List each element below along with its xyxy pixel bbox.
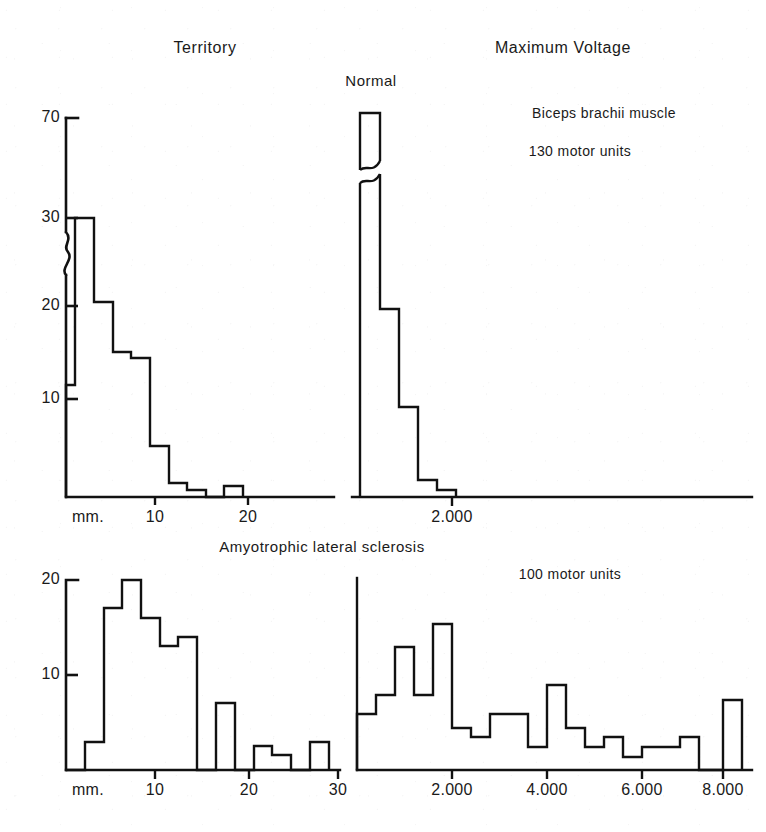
panel-territory-normal — [64, 118, 334, 505]
x-tick-label-mm-territory-normal: mm. — [72, 509, 104, 525]
x-tick-label-20-territory-als: 20 — [240, 782, 258, 798]
axis-break-lower-maxvoltage-normal — [360, 174, 380, 183]
x-tick-label-2000-maxvoltage-normal: 2.000 — [431, 509, 473, 525]
panel-maxvoltage-normal — [352, 113, 752, 506]
annotation-muscle: Biceps brachii muscle — [532, 106, 676, 120]
histogram-bar-1-upper-maxvoltage-normal — [360, 113, 380, 170]
axis-break-upper-maxvoltage-normal — [360, 161, 380, 170]
panel-maxvoltage-als — [357, 578, 752, 779]
histogram-territory-normal — [66, 218, 243, 497]
panel-title-max-voltage: Maximum Voltage — [495, 40, 631, 56]
panel-territory-als — [66, 580, 340, 779]
x-tick-label-20-territory-normal: 20 — [239, 509, 257, 525]
y-tick-label-20-territory-normal: 20 — [42, 297, 60, 313]
row-label-amyotrophic-lateral-sclerosis: Amyotrophic lateral sclerosis — [219, 539, 424, 554]
x-tick-label-30-territory-als: 30 — [329, 782, 347, 798]
y-tick-label-10-territory-normal: 10 — [42, 390, 60, 406]
figure-root: Territory Maximum Voltage Normal Biceps … — [0, 0, 766, 832]
y-tick-label-70-territory-normal: 70 — [42, 109, 60, 125]
annotation-als-motor-units: 100 motor units — [519, 567, 622, 581]
x-tick-label-6000-maxvoltage-als: 6.000 — [621, 782, 663, 798]
histogram-territory-als — [66, 580, 329, 770]
x-tick-label-2000-maxvoltage-als: 2.000 — [431, 782, 473, 798]
x-tick-label-mm-territory-als: mm. — [72, 782, 104, 798]
x-tick-label-8000-maxvoltage-als: 8.000 — [702, 782, 744, 798]
figure-canvas — [0, 0, 766, 832]
x-tick-label-4000-maxvoltage-als: 4.000 — [526, 782, 568, 798]
row-label-normal: Normal — [345, 73, 396, 88]
y-tick-label-30-territory-normal: 30 — [42, 209, 60, 225]
x-tick-label-10-territory-normal: 10 — [146, 509, 164, 525]
x-tick-label-10-territory-als: 10 — [146, 782, 164, 798]
y-tick-label-20-territory-als: 20 — [42, 571, 60, 587]
y-tick-label-10-territory-als: 10 — [42, 666, 60, 682]
histogram-maxvoltage-als — [357, 624, 742, 770]
histogram-maxvoltage-normal — [360, 174, 456, 497]
panel-title-territory: Territory — [173, 40, 236, 56]
annotation-normal-motor-units: 130 motor units — [529, 144, 632, 158]
